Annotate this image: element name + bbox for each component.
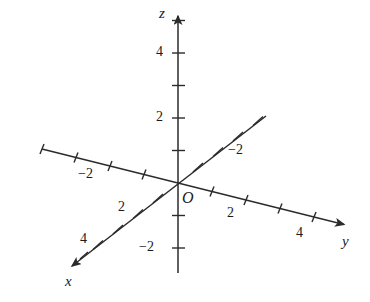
x-tick-label-2: 2 (118, 200, 125, 214)
x-axis-line (72, 116, 266, 266)
x-axis-ticks (80, 117, 263, 260)
origin-label: O (182, 190, 194, 206)
z-tick-label-minus-2: −2 (139, 240, 154, 254)
z-tick-label-2: 2 (156, 110, 163, 124)
axes-drawing (0, 0, 370, 302)
coordinate-axes-figure: z y x O 4 2 −2 2 4 −2 2 4 −2 (0, 0, 370, 302)
y-axis (40, 144, 344, 225)
z-axis (172, 16, 185, 273)
y-tick-label-4: 4 (296, 226, 303, 240)
x-tick-label-4: 4 (80, 232, 87, 246)
y-tick-label-2: 2 (227, 206, 234, 220)
y-tick-label-minus-2: −2 (78, 167, 93, 181)
z-tick-label-4: 4 (156, 45, 163, 59)
x-tick-label-minus-2: −2 (228, 143, 243, 157)
z-axis-label: z (159, 6, 165, 21)
x-axis (72, 116, 266, 266)
y-axis-line (42, 149, 344, 225)
x-axis-label: x (65, 274, 72, 289)
y-axis-label: y (342, 234, 349, 249)
